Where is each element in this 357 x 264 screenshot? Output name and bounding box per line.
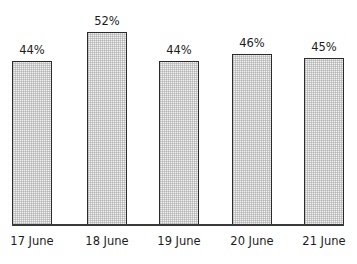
- bar-group: 46% 20 June: [232, 54, 272, 225]
- category-label: 17 June: [10, 234, 53, 248]
- bar-chart: 44% 17 June 52% 18 June 44% 19 June 46% …: [0, 0, 357, 264]
- category-label: 19 June: [157, 234, 200, 248]
- bar-rect: [87, 32, 127, 225]
- bar-value-label: 44%: [19, 43, 45, 57]
- bar-rect: [304, 58, 344, 225]
- category-label: 18 June: [85, 234, 128, 248]
- bar-value-label: 46%: [239, 36, 265, 50]
- bar-group: 44% 19 June: [159, 61, 199, 225]
- bar-group: 45% 21 June: [304, 58, 344, 225]
- x-axis-baseline: [12, 224, 344, 226]
- bar-value-label: 52%: [94, 14, 120, 28]
- bar-group: 44% 17 June: [12, 61, 52, 225]
- plot-area: 44% 17 June 52% 18 June 44% 19 June 46% …: [0, 0, 357, 264]
- bar-rect: [159, 61, 199, 225]
- bar-rect: [232, 54, 272, 225]
- category-label: 20 June: [230, 234, 273, 248]
- bar-rect: [12, 61, 52, 225]
- bar-value-label: 44%: [166, 43, 192, 57]
- bar-value-label: 45%: [311, 40, 337, 54]
- bar-group: 52% 18 June: [87, 32, 127, 225]
- category-label: 21 June: [302, 234, 345, 248]
